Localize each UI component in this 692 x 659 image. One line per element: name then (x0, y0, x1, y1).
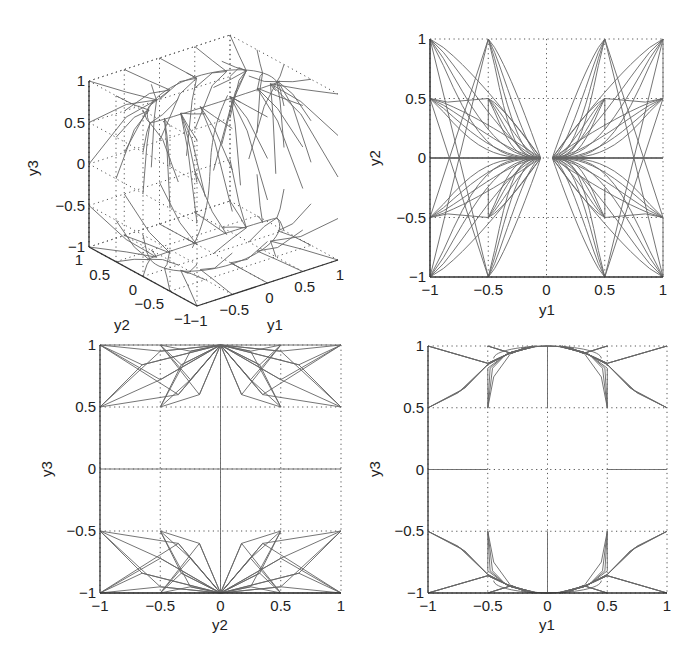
y1-tick-label: 1 (336, 266, 344, 283)
trajectory (89, 81, 157, 100)
y-tick-label: 0.5 (403, 399, 424, 416)
trajectory (231, 97, 268, 159)
z-tick-label: 0.5 (64, 114, 85, 131)
br-xlabel: y1 (539, 616, 555, 633)
x-tick-label: 1 (337, 597, 345, 614)
trajectory (277, 189, 284, 218)
y2-tick-label: −1 (174, 310, 191, 327)
trajectory (278, 81, 311, 162)
tr-xlabel: y1 (539, 301, 555, 318)
y2-tick-label: 0.5 (89, 266, 110, 283)
br-ylabel: y3 (366, 461, 383, 477)
y-tick-label: −1 (79, 584, 96, 601)
z-tick-label: −0.5 (55, 197, 85, 214)
y1-tick-label: 0.5 (294, 278, 315, 295)
trajectory (569, 586, 607, 593)
trajectory (278, 79, 311, 81)
trajectory (569, 346, 607, 353)
trajectory (160, 78, 197, 99)
trajectory (278, 231, 311, 245)
y2-tick-label: 1 (75, 251, 83, 268)
y-tick-label: −0.5 (66, 522, 96, 539)
trajectory (270, 84, 275, 174)
x-tick-label: 0.5 (597, 597, 618, 614)
trajectory (124, 236, 170, 253)
trajectory (143, 259, 150, 276)
trajectory (164, 268, 170, 291)
bl-ylabel: y3 (38, 461, 55, 477)
trajectory (488, 586, 526, 593)
y-tick-label: 1 (418, 30, 426, 47)
trajectory (257, 73, 263, 133)
trajectory (270, 241, 338, 260)
trajectory (200, 253, 232, 270)
tr-ylabel: y2 (366, 150, 383, 166)
trajectory (277, 65, 284, 82)
y-tick-label: −1 (409, 268, 426, 285)
x-tick-label: 0 (216, 597, 224, 614)
trajectory (488, 346, 526, 353)
y-tick-label: 0 (416, 461, 424, 478)
plot-y1-y2-projection: −1−1−0.5−0.5000.50.511 (396, 30, 667, 298)
trajectory (257, 50, 263, 73)
trajectory (257, 251, 303, 272)
x-tick-label: 0 (543, 597, 551, 614)
y-tick-label: 0 (418, 149, 426, 166)
x-tick-label: 1 (663, 597, 671, 614)
x-tick-label: 0 (542, 281, 550, 298)
y-tick-label: 0 (88, 460, 96, 477)
plot-y2-y3-projection: −1−1−0.5−0.5000.50.511 (66, 336, 345, 614)
trajectory (116, 96, 149, 110)
y1-tick-label: 0 (265, 289, 273, 306)
x-tick-label: 0.5 (270, 597, 291, 614)
trajectory (160, 224, 197, 244)
plot-3d-trajectories: −1−1−1−0.5−0.5−0.50000.50.50.5111 (55, 35, 344, 329)
y1-tick-label: −0.5 (219, 301, 249, 318)
y-tick-label: 1 (416, 337, 424, 354)
p3d-xlabel: y1 (267, 316, 283, 333)
trajectory (160, 183, 197, 245)
y-tick-label: 0.5 (75, 398, 96, 415)
plot-y1-y3-projection: −1−1−0.5−0.5000.50.511 (394, 337, 671, 614)
x-tick-label: −0.5 (473, 597, 503, 614)
trajectory (181, 265, 197, 274)
y2-tick-label: 0 (129, 281, 137, 298)
y-tick-label: −1 (407, 584, 424, 601)
y-tick-label: 0.5 (405, 90, 426, 107)
z-tick-label: 1 (77, 72, 85, 89)
x-tick-label: −0.5 (145, 597, 175, 614)
x-tick-label: 0.5 (594, 281, 615, 298)
y-tick-label: −0.5 (396, 209, 426, 226)
trajectory (195, 171, 227, 234)
trajectory (195, 72, 227, 130)
trajectory (221, 345, 281, 407)
trajectory (160, 345, 220, 407)
trajectory (150, 123, 178, 182)
trajectory (195, 47, 227, 72)
x-tick-label: 1 (659, 281, 667, 298)
z-tick-label: 0 (77, 155, 85, 172)
trajectory (195, 72, 227, 89)
y-tick-label: −0.5 (394, 522, 424, 539)
trajectory (160, 531, 220, 593)
trajectory (249, 76, 277, 82)
bl-xlabel: y2 (212, 616, 228, 633)
y2-tick-label: −0.5 (134, 295, 164, 312)
trajectory (124, 70, 170, 91)
trajectory (231, 242, 268, 263)
p3d-zlabel: y3 (24, 160, 41, 176)
p3d-ylabel: y2 (114, 316, 130, 333)
trajectory (230, 160, 246, 228)
trajectory (151, 100, 156, 167)
trajectory (160, 58, 197, 78)
y1-tick-label: −1 (190, 312, 207, 329)
y-tick-label: 1 (88, 336, 96, 353)
trajectory (200, 270, 232, 295)
figure: −1−1−1−0.5−0.5−0.50000.50.50.5111 −1−1−0… (0, 0, 692, 659)
grid-line (195, 213, 303, 272)
x-tick-label: −0.5 (473, 281, 503, 298)
trajectory (221, 531, 281, 593)
